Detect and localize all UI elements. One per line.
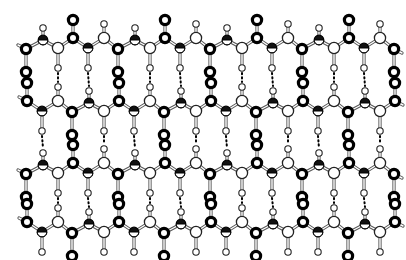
hydrogen-atom xyxy=(270,209,276,215)
alpha-carbon-atom xyxy=(52,42,63,53)
hydrogen-atom xyxy=(269,190,275,196)
oxygen-atom xyxy=(114,78,123,87)
atoms xyxy=(21,15,399,260)
oxygen-atom xyxy=(344,140,353,149)
oxygen-atom xyxy=(251,251,260,260)
alpha-carbon-atom xyxy=(282,157,293,168)
alpha-carbon-atom xyxy=(328,167,339,178)
nitrogen-atom-shading xyxy=(38,40,48,45)
hydrogen-atom xyxy=(101,146,107,152)
nitrogen-atom-shading xyxy=(83,48,93,53)
oxygen-atom xyxy=(113,44,122,53)
alpha-carbon-atom xyxy=(52,216,63,227)
alpha-carbon-atom xyxy=(98,32,109,43)
alpha-carbon-atom xyxy=(190,105,201,116)
hydrogen-atom xyxy=(147,65,153,71)
hydrogen-bond xyxy=(318,136,319,148)
hydrogen-atom xyxy=(39,128,45,134)
nitrogen-atom-shading xyxy=(267,48,277,53)
oxygen-atom xyxy=(206,78,215,87)
oxygen-atom xyxy=(343,228,352,237)
nitrogen-atom-shading xyxy=(313,111,323,116)
hydrogen-atom xyxy=(177,190,183,196)
nitrogen-atom-shading xyxy=(314,40,324,45)
nitrogen-atom-shading xyxy=(222,165,232,170)
nitrogen-atom-shading xyxy=(83,173,93,178)
hydrogen-bond xyxy=(180,73,181,86)
alpha-carbon-atom xyxy=(144,216,155,227)
oxygen-atom xyxy=(67,130,76,139)
hydrogen-bond xyxy=(226,136,227,148)
nitrogen-atom-shading xyxy=(176,224,186,229)
hydrogen-bond xyxy=(272,198,273,207)
oxygen-atom xyxy=(389,67,398,76)
hydrogen-atom xyxy=(55,190,61,196)
oxygen-atom xyxy=(390,199,399,208)
hydrogen-atom xyxy=(193,21,199,27)
hydrogen-bond xyxy=(364,73,365,86)
nitrogen-atom-shading xyxy=(129,111,139,116)
hydrogen-atom xyxy=(55,84,61,90)
hydrogen-atom xyxy=(132,150,138,156)
oxygen-atom xyxy=(298,217,307,226)
hydrogen-atom xyxy=(147,84,153,90)
oxygen-atom xyxy=(298,96,307,105)
hydrogen-atom xyxy=(331,190,337,196)
oxygen-atom xyxy=(67,228,76,237)
nitrogen-atom-shading xyxy=(84,103,94,108)
oxygen-atom xyxy=(160,140,169,149)
nitrogen-atom-shading xyxy=(314,165,324,170)
hydrogen-atom xyxy=(224,150,230,156)
oxygen-atom xyxy=(389,169,398,178)
oxygen-atom xyxy=(297,44,306,53)
alpha-carbon-atom xyxy=(374,32,385,43)
oxygen-atom xyxy=(113,67,122,76)
oxygen-atom xyxy=(252,140,261,149)
hydrogen-atom xyxy=(177,65,183,71)
hydrogen-atom xyxy=(239,205,245,211)
alpha-carbon-atom xyxy=(144,167,155,178)
nitrogen-atom-shading xyxy=(221,232,231,237)
alpha-carbon-atom xyxy=(374,105,385,116)
hydrogen-atom xyxy=(361,190,367,196)
oxygen-atom xyxy=(252,158,261,167)
hydrogen-atom xyxy=(55,205,61,211)
oxygen-atom xyxy=(297,169,306,178)
oxygen-atom xyxy=(67,107,76,116)
nitrogen-atom-shading xyxy=(129,232,139,237)
hydrogen-atom xyxy=(131,249,137,255)
nitrogen-atom-shading xyxy=(37,232,47,237)
hydrogen-atom xyxy=(239,190,245,196)
hydrogen-atom xyxy=(223,128,229,134)
oxygen-atom xyxy=(160,33,169,42)
alpha-carbon-atom xyxy=(144,42,155,53)
oxygen-atom xyxy=(390,96,399,105)
oxygen-atom xyxy=(159,130,168,139)
hydrogen-bond xyxy=(134,136,135,148)
alpha-carbon-atom xyxy=(328,95,339,106)
nitrogen-atom-shading xyxy=(175,173,185,178)
alpha-carbon-atom xyxy=(52,167,63,178)
hydrogen-atom xyxy=(315,249,321,255)
oxygen-atom xyxy=(22,199,31,208)
alpha-carbon-atom xyxy=(374,226,385,237)
hydrogen-atom xyxy=(178,209,184,215)
oxygen-atom xyxy=(114,217,123,226)
hydrogen-atom xyxy=(147,205,153,211)
oxygen-atom xyxy=(68,140,77,149)
hydrogen-atom xyxy=(40,25,46,31)
oxygen-atom xyxy=(298,78,307,87)
nitrogen-atom-shading xyxy=(360,224,370,229)
oxygen-atom xyxy=(343,130,352,139)
oxygen-atom xyxy=(160,15,169,24)
alpha-carbon-atom xyxy=(98,226,109,237)
hydrogen-atom xyxy=(239,84,245,90)
oxygen-atom xyxy=(21,169,30,178)
oxygen-atom xyxy=(205,169,214,178)
alpha-carbon-atom xyxy=(190,226,201,237)
oxygen-atom xyxy=(206,217,215,226)
hydrogen-bond xyxy=(364,198,365,207)
hydrogen-atom xyxy=(101,249,107,255)
hydrogen-atom xyxy=(270,88,276,94)
nitrogen-atom-shading xyxy=(37,111,47,116)
